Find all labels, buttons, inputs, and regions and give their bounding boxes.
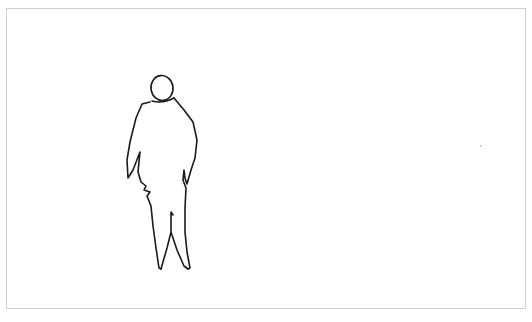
figure-sketch <box>0 0 532 322</box>
left-outline <box>127 102 161 269</box>
head <box>149 74 174 102</box>
speck <box>480 145 481 146</box>
right-outline <box>174 98 197 269</box>
leg-split <box>161 212 188 269</box>
